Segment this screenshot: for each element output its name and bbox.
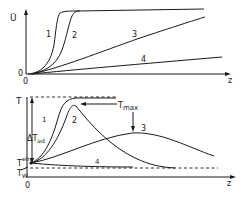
bottom-curve-label-3: 3 bbox=[141, 124, 146, 133]
top-y-axis-arrow-icon bbox=[24, 9, 28, 15]
bottom-curve-4 bbox=[31, 163, 133, 167]
bottom-curve-label-2: 2 bbox=[72, 116, 77, 125]
tmax-arrow-3-head-icon bbox=[131, 126, 135, 132]
top-curve-2 bbox=[30, 11, 80, 74]
top-curve-label-2: 2 bbox=[72, 31, 77, 40]
top-curve-1 bbox=[28, 9, 204, 74]
top-curve-label-1: 1 bbox=[46, 30, 51, 39]
bottom-x-origin-label: 0 bbox=[25, 181, 30, 190]
bottom-x-label: z bbox=[227, 179, 231, 188]
bottom-curve-3 bbox=[31, 133, 214, 163]
bottom-curve-label-4: 4 bbox=[95, 158, 100, 166]
top-x-origin-label: 0 bbox=[23, 77, 28, 86]
top-curve-label-4: 4 bbox=[141, 55, 146, 64]
top-curve-label-3: 3 bbox=[132, 30, 137, 39]
delta-up-arrow-icon bbox=[30, 97, 34, 103]
bottom-y-label: T bbox=[15, 96, 22, 106]
bottom-curve-1 bbox=[31, 98, 116, 163]
t-w-label: TW bbox=[16, 169, 28, 179]
t-ein-label: Tein bbox=[16, 155, 31, 168]
figure: Ū 0 0 z 1 2 3 4 T bbox=[0, 0, 246, 197]
bottom-plot: T ΔTad Tein TW Tmax 0 z 1 2 3 4 bbox=[15, 96, 236, 190]
tmax-arrow-2-head-icon bbox=[80, 102, 86, 106]
bottom-curve-2 bbox=[31, 105, 175, 168]
top-x-label: z bbox=[228, 76, 232, 85]
delta-t-ad-label: ΔTad bbox=[27, 134, 45, 144]
tmax-label: Tmax bbox=[117, 101, 138, 112]
top-curve-3 bbox=[32, 17, 205, 74]
bottom-curve-label-1: 1 bbox=[42, 116, 46, 124]
top-plot: Ū 0 0 z 1 2 3 4 bbox=[10, 9, 232, 86]
top-y-label: Ū bbox=[10, 13, 17, 23]
